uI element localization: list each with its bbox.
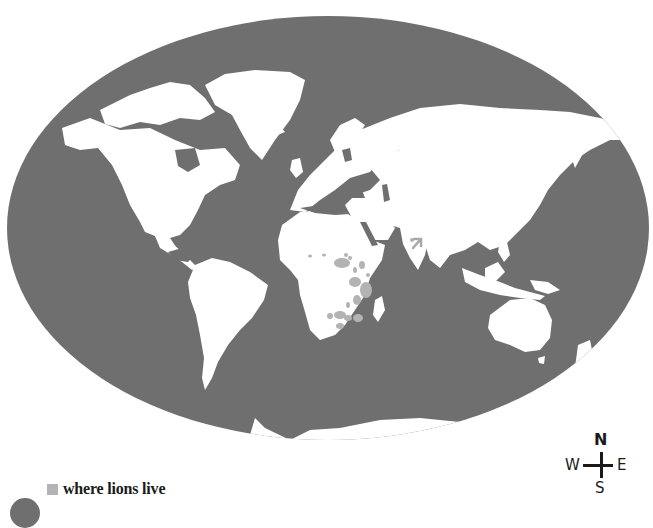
compass-west: W: [565, 456, 580, 474]
compass-south: S: [595, 479, 605, 497]
legend-label: where lions live: [63, 480, 165, 498]
page-corner-circle: [10, 498, 40, 528]
compass-cross-horizontal: [583, 464, 613, 467]
lion-range-swatch: [47, 484, 58, 495]
compass-east: E: [617, 456, 626, 474]
compass-rose: N W E S: [565, 430, 635, 508]
map-legend: where lions live: [47, 480, 165, 498]
compass-north: N: [594, 430, 607, 449]
